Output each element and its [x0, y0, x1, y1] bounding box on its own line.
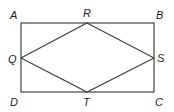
- label-d: D: [10, 96, 18, 108]
- label-b: B: [156, 9, 163, 21]
- label-t: T: [83, 96, 91, 108]
- label-s: S: [157, 52, 165, 64]
- label-q: Q: [8, 53, 17, 65]
- label-a: A: [9, 9, 17, 21]
- rectangle-abcd: [21, 23, 154, 92]
- geometry-diagram: A B C D R S T Q: [0, 0, 174, 112]
- label-c: C: [155, 96, 163, 108]
- label-r: R: [83, 7, 91, 19]
- rhombus-qrst: [21, 23, 154, 92]
